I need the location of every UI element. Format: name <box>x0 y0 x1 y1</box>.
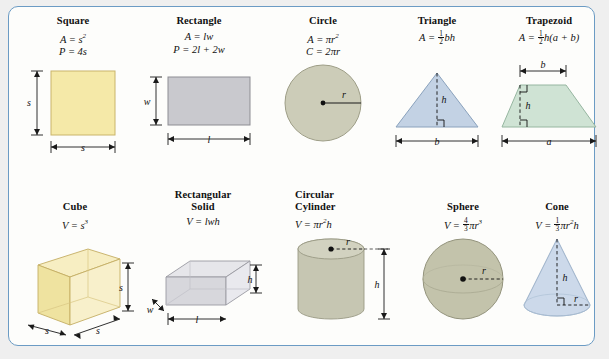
label-height: h <box>442 94 447 105</box>
figure-sphere-title: Sphere <box>407 201 519 213</box>
label-depth: s <box>45 325 49 336</box>
title-line-1: Circular <box>295 189 403 201</box>
formula-volume: V = πr2h <box>295 215 403 231</box>
label-height: h <box>563 272 568 283</box>
figure-circular-cylinder-title: Circular Cylinder <box>291 189 403 212</box>
figure-circular-cylinder: Circular Cylinder V = πr2h r <box>291 189 403 347</box>
label-radius: r <box>342 89 346 100</box>
figure-cube-formulas: V = s3 <box>15 216 135 232</box>
formula-area: A = s2 <box>15 30 131 46</box>
label-width: w <box>147 304 154 315</box>
figure-circle-formulas: A = πr2 C = 2πr <box>267 30 379 59</box>
figure-circular-cylinder-drawing: r h <box>291 231 403 339</box>
figure-triangle-formulas: A = 12bh <box>381 30 493 46</box>
label-radius: r <box>482 265 486 276</box>
label-side-horizontal: s <box>81 142 85 153</box>
label-top: b <box>541 59 546 70</box>
figure-sphere: Sphere V = 43πr3 r <box>407 189 519 347</box>
figure-square: Square A = s2 P = 4s s <box>15 15 131 183</box>
formula-volume: V = s3 <box>15 216 135 232</box>
figure-cone-title: Cone <box>509 201 605 213</box>
solid-figures-row: Cube V = s3 <box>9 189 594 347</box>
label-length: l <box>208 134 211 145</box>
figure-rectangle: Rectangle A = lw P = 2l + 2w w <box>135 15 263 183</box>
figure-rectangular-solid-drawing: w l h <box>139 235 267 339</box>
title-line-2: Cylinder <box>295 201 403 213</box>
figure-cone-drawing: h r <box>509 229 605 335</box>
figure-cube: Cube V = s3 <box>15 189 135 347</box>
label-width: s <box>96 325 100 336</box>
figure-rectangle-formulas: A = lw P = 2l + 2w <box>135 30 263 56</box>
geometry-formula-chart: Square A = s2 P = 4s s <box>8 6 595 346</box>
figure-circle-title: Circle <box>267 15 379 27</box>
label-radius: r <box>346 236 350 247</box>
label-height: h <box>375 279 380 290</box>
formula-volume: V = lwh <box>139 215 267 228</box>
formula-area: A = 12h(a + b) <box>491 30 607 46</box>
label-side-vertical: s <box>27 97 31 108</box>
figure-triangle: Triangle A = 12bh h b <box>381 15 493 183</box>
figure-square-drawing: s s <box>15 63 131 163</box>
label-width: w <box>144 96 151 107</box>
label-height: h <box>526 100 531 111</box>
title-line-1: Rectangular <box>139 189 267 201</box>
figure-rectangular-solid-title: Rectangular Solid <box>139 189 267 212</box>
figure-rectangle-drawing: w l <box>135 63 263 163</box>
plane-figures-row: Square A = s2 P = 4s s <box>9 15 594 183</box>
title-line-2: Solid <box>139 201 267 213</box>
formula-circumference: C = 2πr <box>267 45 379 58</box>
formula-area: A = πr2 <box>267 30 379 46</box>
figure-trapezoid-formulas: A = 12h(a + b) <box>491 30 607 46</box>
formula-perimeter: P = 2l + 2w <box>135 43 263 56</box>
figure-triangle-drawing: h b <box>381 55 493 163</box>
figure-cube-drawing: s s s <box>15 233 135 339</box>
figure-trapezoid-title: Trapezoid <box>491 15 607 27</box>
figure-sphere-drawing: r <box>407 229 519 335</box>
figure-cone: Cone V = 13πr2h h r <box>509 189 605 347</box>
label-base: b <box>435 136 440 147</box>
figure-circle: Circle A = πr2 C = 2πr r <box>267 15 379 183</box>
figure-square-formulas: A = s2 P = 4s <box>15 30 131 59</box>
formula-perimeter: P = 4s <box>15 45 131 58</box>
figure-circular-cylinder-formulas: V = πr2h <box>291 215 403 231</box>
label-length: l <box>196 314 199 325</box>
figure-cube-title: Cube <box>15 201 135 213</box>
label-height: h <box>248 274 253 285</box>
figure-trapezoid: Trapezoid A = 12h(a + b) b <box>491 15 607 183</box>
figure-rectangular-solid: Rectangular Solid V = lwh w <box>139 189 267 347</box>
formula-area: A = 12bh <box>381 30 493 46</box>
figure-rectangle-title: Rectangle <box>135 15 263 27</box>
figure-triangle-title: Triangle <box>381 15 493 27</box>
figure-circle-drawing: r <box>267 59 379 159</box>
label-bottom: a <box>547 136 552 147</box>
label-radius: r <box>574 293 578 304</box>
figure-trapezoid-drawing: b h a <box>491 53 607 163</box>
figure-rectangular-solid-formulas: V = lwh <box>139 215 267 228</box>
figure-square-title: Square <box>15 15 131 27</box>
label-height: s <box>119 282 123 293</box>
formula-area: A = lw <box>135 30 263 43</box>
